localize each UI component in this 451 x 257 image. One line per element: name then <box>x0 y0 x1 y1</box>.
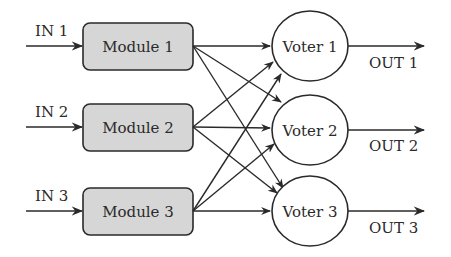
input-label-2: IN 2 <box>35 103 68 121</box>
output-label-2: OUT 2 <box>369 137 418 155</box>
module-1-label: Module 1 <box>102 38 174 56</box>
voter-3-label: Voter 3 <box>282 203 338 221</box>
voter-3: Voter 3 <box>272 176 348 246</box>
voter-2-label: Voter 2 <box>282 122 338 140</box>
module-1: Module 1 <box>83 23 193 70</box>
module-3: Module 3 <box>83 188 193 235</box>
input-label-1: IN 1 <box>35 22 68 40</box>
m3-to-v2 <box>193 144 274 211</box>
m1-to-v3 <box>193 46 283 188</box>
module-voter-connections <box>193 46 283 211</box>
output-label-1: OUT 1 <box>369 54 418 72</box>
m3-to-v1 <box>193 74 281 211</box>
input-label-3: IN 3 <box>35 187 68 205</box>
module-2: Module 2 <box>83 104 193 151</box>
tmr-diagram: IN 1 IN 2 IN 3 Module 1 Module 2 Module … <box>0 0 451 257</box>
voter-1-label: Voter 1 <box>282 38 338 56</box>
module-2-label: Module 2 <box>102 119 174 137</box>
output-label-3: OUT 3 <box>369 219 418 237</box>
voter-2: Voter 2 <box>272 95 348 165</box>
m2-to-v3 <box>193 127 277 193</box>
m2-to-v2 <box>193 127 270 128</box>
voter-1: Voter 1 <box>272 11 348 81</box>
module-3-label: Module 3 <box>102 203 174 221</box>
